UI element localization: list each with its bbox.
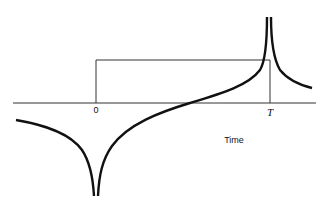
rectangular-pulse: [96, 60, 270, 103]
time-axis-label: Time: [224, 135, 244, 145]
origin-label: 0: [93, 105, 98, 115]
response-curve-middle-branch: [98, 17, 267, 196]
response-curve-left-branch: [16, 120, 94, 196]
response-curve-right-branch: [271, 17, 312, 88]
pulse-end-label: T: [267, 106, 274, 118]
diagram-canvas: 0 T Time: [0, 0, 328, 209]
